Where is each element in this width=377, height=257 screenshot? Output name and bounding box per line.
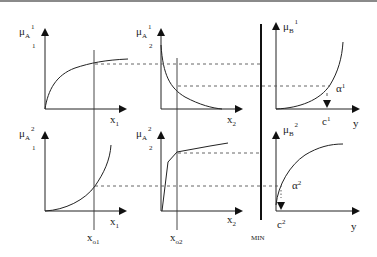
c-label: c1 [322, 115, 331, 127]
membership-curve [276, 144, 343, 205]
x-label: x2 [227, 213, 237, 228]
panel-bottom-right: μB2 α2 c2 y [276, 121, 358, 232]
y-label: μB2 [283, 121, 299, 138]
x-label: x1 [110, 113, 120, 128]
y-label-index: 1 [32, 42, 36, 50]
x-label: x1 [110, 215, 120, 230]
y-label-index: 2 [149, 42, 153, 50]
xo2-label: xo2 [170, 231, 183, 246]
y-label: μA1 [19, 23, 35, 40]
x-label: y [353, 117, 359, 129]
membership-curve [161, 45, 222, 109]
alpha-label: α2 [292, 179, 302, 191]
y-label: μB1 [283, 18, 299, 35]
x-label: y [351, 220, 357, 232]
membership-curve [162, 143, 228, 211]
down-arrow-icon [277, 202, 285, 210]
y-label: μA2 [19, 125, 35, 142]
panel-top-middle: μA1 2 x2 [136, 23, 241, 128]
y-label: μA1 [136, 23, 152, 40]
panel-top-right: μB1 α1 c1 y [276, 18, 359, 129]
x-label: x2 [227, 113, 237, 128]
membership-curve [45, 145, 111, 211]
y-label-index: 2 [149, 144, 153, 152]
alpha-label: α1 [336, 82, 346, 94]
c-label: c2 [277, 218, 286, 230]
min-label: MIN [251, 234, 265, 242]
panel-bottom-left: μA2 1 x1 xo1 [19, 125, 125, 246]
panel-top-left: μA1 1 x1 [19, 23, 128, 128]
fuzzy-inference-diagram: μA1 1 x1 μA1 2 x2 μB1 α1 c1 y μA2 1 x1 x… [0, 0, 377, 257]
panel-bottom-middle: μA2 2 x2 xo2 [136, 125, 241, 246]
down-arrow-icon [323, 100, 331, 108]
xo1-label: xo1 [87, 231, 100, 246]
membership-curve [45, 59, 128, 109]
membership-curve [276, 42, 343, 109]
y-label: μA2 [136, 125, 152, 142]
y-label-index: 1 [32, 144, 36, 152]
